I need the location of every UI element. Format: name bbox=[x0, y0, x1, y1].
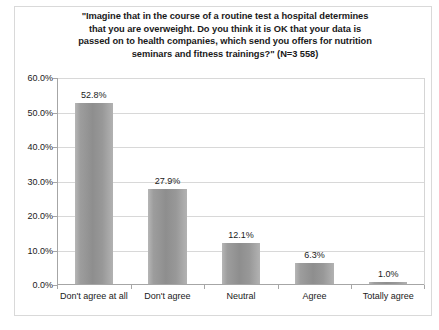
x-axis-labels: Don't agree at allDon't agreeNeutralAgre… bbox=[57, 291, 425, 321]
y-axis-tick-label: 0.0% bbox=[32, 280, 53, 290]
chart-title: "Imagine that in the course of a routine… bbox=[30, 10, 420, 60]
chart-title-line-3: passed on to health companies, which sen… bbox=[30, 35, 420, 48]
x-axis-category-label: Don't agree at all bbox=[57, 291, 131, 303]
bar bbox=[75, 103, 113, 285]
y-axis-tick-label: 10.0% bbox=[27, 246, 53, 256]
bar-chart-figure: "Imagine that in the course of a routine… bbox=[0, 0, 439, 330]
y-axis-tick-label: 40.0% bbox=[27, 142, 53, 152]
x-axis-tick-mark bbox=[131, 285, 132, 289]
x-axis-category-label: Agree bbox=[278, 291, 352, 303]
x-axis-tick-mark bbox=[424, 285, 425, 289]
y-axis-tick-label: 20.0% bbox=[27, 211, 53, 221]
x-axis-category-label: Totally agree bbox=[351, 291, 425, 303]
gridline bbox=[57, 78, 424, 79]
y-axis-line bbox=[57, 78, 58, 285]
y-axis-tick-label: 30.0% bbox=[27, 177, 53, 187]
chart-title-line-4: seminars and fitness trainings?" (N=3 55… bbox=[30, 48, 420, 61]
y-axis-tick-label: 50.0% bbox=[27, 108, 53, 118]
plot-area bbox=[57, 78, 425, 285]
y-axis-tick-label: 60.0% bbox=[27, 73, 53, 83]
x-axis-tick-mark bbox=[351, 285, 352, 289]
bar bbox=[222, 243, 260, 285]
x-axis-tick-mark bbox=[278, 285, 279, 289]
bar bbox=[148, 189, 186, 285]
x-axis-tick-mark bbox=[57, 285, 58, 289]
bar bbox=[295, 263, 333, 285]
x-axis-category-label: Neutral bbox=[204, 291, 278, 303]
chart-title-line-1: "Imagine that in the course of a routine… bbox=[30, 10, 420, 23]
x-axis-tick-mark bbox=[204, 285, 205, 289]
x-axis-ticks bbox=[57, 285, 425, 290]
y-axis: 0.0%10.0%20.0%30.0%40.0%50.0%60.0% bbox=[10, 78, 53, 285]
chart-title-line-2: that you are overweight. Do you think it… bbox=[30, 23, 420, 36]
x-axis-category-label: Don't agree bbox=[131, 291, 205, 303]
